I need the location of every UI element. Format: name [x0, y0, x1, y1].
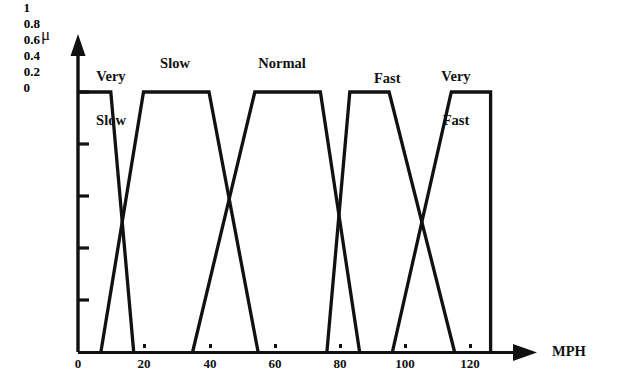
- x-tick-label-120: 120: [454, 357, 486, 370]
- set-label-very-slow-line2: Slow: [82, 113, 140, 128]
- set-label-very-fast: Very Fast: [428, 39, 484, 157]
- set-label-very-slow-line1: Very: [82, 69, 140, 84]
- x-tick-label-40: 40: [197, 357, 223, 370]
- x-tick-label-60: 60: [262, 357, 288, 370]
- y-axis-title: μ: [41, 26, 50, 43]
- set-label-fast-text: Fast: [374, 70, 401, 86]
- x-tick-label-20: 20: [131, 357, 157, 370]
- x-tick-label-80: 80: [327, 357, 353, 370]
- set-label-very-fast-line1: Very: [428, 69, 484, 84]
- set-label-normal: Normal: [247, 56, 317, 71]
- x-axis-title: MPH: [552, 344, 586, 359]
- set-label-very-slow: Very Slow: [82, 39, 140, 157]
- set-label-slow: Slow: [148, 56, 202, 71]
- x-tick-label-0: 0: [68, 357, 88, 370]
- membership-function-chart: μ 1 0.8 0.6 0.4 0.2 0 0 20 40 60 80 100 …: [0, 0, 627, 384]
- set-label-fast: Fast: [355, 56, 405, 100]
- x-tick-label-100: 100: [389, 357, 421, 370]
- set-label-very-fast-line2: Fast: [428, 113, 484, 128]
